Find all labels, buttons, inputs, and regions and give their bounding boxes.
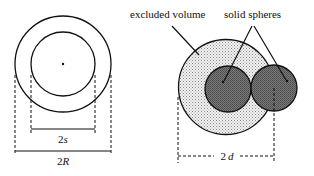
left-diagram: 2s 2R	[15, 16, 111, 167]
excluded-volume-label: excluded volume	[130, 8, 206, 20]
distance-label: 2d	[221, 150, 235, 162]
excluded-volume-leader	[172, 26, 199, 55]
leader-tip-1	[222, 81, 224, 83]
leader-tip-2	[286, 80, 288, 82]
diagram-canvas: 2s 2R excluded volume solid spheres 2d	[0, 0, 314, 176]
right-diagram: excluded volume solid spheres 2d	[130, 8, 297, 163]
outer-diameter-label: 2R	[57, 155, 70, 167]
solid-spheres-label: solid spheres	[224, 8, 281, 20]
center-dot	[62, 63, 64, 65]
inner-diameter-label: 2s	[58, 133, 68, 145]
